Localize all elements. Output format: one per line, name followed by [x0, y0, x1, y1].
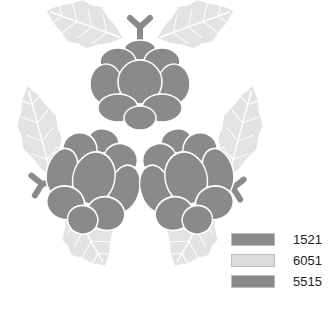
legend: 1521 6051 5515	[231, 229, 322, 292]
legend-label: 6051	[293, 253, 322, 268]
legend-swatch	[231, 254, 275, 267]
legend-item: 6051	[231, 250, 322, 271]
stem-branch	[31, 174, 42, 185]
legend-item: 1521	[231, 229, 322, 250]
legend-swatch	[231, 275, 275, 288]
stem-branch	[140, 18, 150, 27]
legend-item: 5515	[231, 271, 322, 292]
legend-swatch	[231, 233, 275, 246]
legend-label: 5515	[293, 274, 322, 289]
flower-cluster	[90, 40, 190, 130]
petal	[124, 106, 156, 130]
legend-label: 1521	[293, 232, 322, 247]
flowers	[33, 40, 247, 246]
